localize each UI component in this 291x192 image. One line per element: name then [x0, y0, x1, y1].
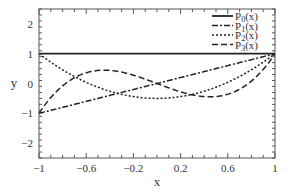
y-tick-label: 1: [28, 48, 34, 60]
x-tick-label: 0.2: [174, 162, 188, 174]
x-tick-label: 1: [272, 162, 278, 174]
plot-curves: [39, 54, 275, 114]
x-tick-label: −0.6: [76, 162, 96, 174]
curve-p2x: [39, 54, 275, 99]
y-tick-label: 2: [28, 18, 34, 30]
x-tick-labels: −1−0.6−0.20.20.61: [33, 162, 278, 174]
y-axis-label: y: [11, 75, 18, 90]
y-tick-labels: −2−1012: [21, 18, 33, 149]
legend: P0(x)P1(x)P2(x)P3(x): [212, 10, 258, 53]
y-tick-label: −2: [21, 137, 33, 149]
x-tick-label: −0.2: [123, 162, 143, 174]
x-tick-label: 0.6: [221, 162, 235, 174]
legendre-chart: −1−0.6−0.20.20.61 −2−1012 x y P0(x)P1(x)…: [0, 0, 291, 192]
svg-text:P3(x): P3(x): [235, 39, 258, 53]
y-tick-label: 0: [28, 78, 34, 90]
legend-item-p3x: P3(x): [212, 39, 258, 53]
x-axis-label: x: [154, 174, 161, 189]
x-tick-label: −1: [33, 162, 45, 174]
y-tick-label: −1: [21, 107, 33, 119]
